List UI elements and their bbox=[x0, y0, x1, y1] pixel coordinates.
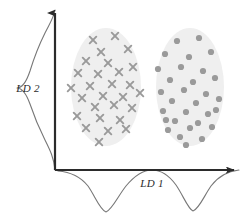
data-point bbox=[165, 127, 171, 133]
data-point bbox=[208, 49, 214, 55]
data-point bbox=[190, 79, 196, 85]
data-point bbox=[205, 111, 211, 117]
data-point bbox=[216, 96, 222, 102]
data-point bbox=[172, 118, 178, 124]
data-point bbox=[163, 117, 169, 123]
data-point bbox=[181, 87, 187, 93]
data-point bbox=[212, 75, 218, 81]
data-point bbox=[209, 124, 215, 130]
data-point bbox=[167, 77, 173, 83]
data-point bbox=[169, 98, 175, 104]
data-point bbox=[160, 108, 166, 114]
data-point bbox=[178, 64, 184, 70]
data-point bbox=[193, 100, 199, 106]
data-point bbox=[174, 38, 180, 44]
figure-root: LD 2 LD 1 bbox=[0, 0, 249, 223]
data-point bbox=[158, 89, 164, 95]
x-axis-label: LD 1 bbox=[139, 177, 164, 189]
figure-canvas: LD 2 LD 1 bbox=[0, 0, 249, 223]
data-point bbox=[186, 54, 192, 60]
data-point bbox=[203, 91, 209, 97]
data-point bbox=[155, 66, 161, 72]
data-point bbox=[183, 109, 189, 115]
data-point bbox=[199, 136, 205, 142]
data-point bbox=[213, 107, 219, 113]
y-axis-label: LD 2 bbox=[15, 82, 40, 94]
data-point bbox=[187, 125, 193, 131]
data-point bbox=[177, 134, 183, 140]
data-point bbox=[200, 68, 206, 74]
data-point bbox=[183, 142, 189, 148]
data-point bbox=[195, 120, 201, 126]
data-point bbox=[196, 35, 202, 41]
data-point bbox=[162, 51, 168, 57]
